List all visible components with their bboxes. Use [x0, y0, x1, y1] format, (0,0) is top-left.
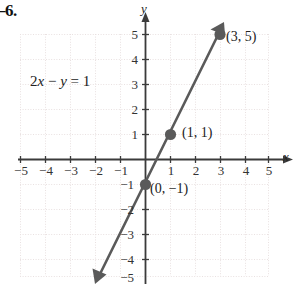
point-label-3-5: (3, 5) [226, 30, 256, 44]
y-tick-label-2: 2 [118, 103, 138, 116]
y-tick-label-neg1: −1 [114, 178, 134, 191]
graph-figure: –6. [0, 0, 302, 290]
x-tick-label-neg2: −2 [84, 164, 108, 177]
equation-constant: 1 [83, 73, 91, 89]
x-tick-label-neg3: −3 [59, 164, 83, 177]
equation-var-y: y [60, 73, 67, 89]
x-tick-label-neg4: −4 [34, 164, 58, 177]
point-label-1-1: (1, 1) [182, 126, 212, 140]
y-axis-label: y [141, 2, 147, 15]
x-tick-label-3: 3 [209, 164, 233, 177]
equation-var-x: x [38, 73, 45, 89]
grid-horizontal-lines [20, 35, 269, 277]
y-axis [142, 12, 150, 284]
point-label-0-neg1: (0, −1) [150, 182, 188, 196]
equation-operator: − [48, 73, 56, 89]
y-tick-label-neg2: −2 [114, 203, 134, 216]
equation-coefficient: 2 [30, 73, 38, 89]
coordinate-plane [0, 0, 302, 290]
point-3-5 [214, 29, 225, 40]
equation-equals: = [71, 73, 79, 89]
graph-line [93, 22, 226, 284]
y-tick-label-3: 3 [118, 78, 138, 91]
x-tick-label-neg5: −5 [9, 164, 33, 177]
x-tick-label-5: 5 [257, 164, 281, 177]
equation-label: 2x − y = 1 [30, 74, 90, 89]
x-tick-label-1: 1 [159, 164, 183, 177]
y-tick-label-neg5: −5 [114, 271, 134, 284]
x-axis-label: x [283, 150, 289, 163]
y-tick-label-1: 1 [118, 128, 138, 141]
grid-vertical-lines [21, 34, 269, 276]
point-1-1 [165, 129, 176, 140]
y-tick-label-neg4: −4 [114, 253, 134, 266]
x-tick-label-2: 2 [184, 164, 208, 177]
y-tick-label-4: 4 [118, 53, 138, 66]
x-tick-label-4: 4 [234, 164, 258, 177]
x-tick-label-neg1: −1 [109, 164, 133, 177]
y-tick-label-neg3: −3 [114, 228, 134, 241]
y-tick-label-5: 5 [118, 28, 138, 41]
